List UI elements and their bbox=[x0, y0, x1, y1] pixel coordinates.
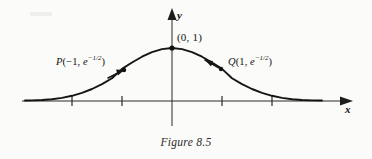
peak-point-label: (0, 1) bbox=[177, 32, 202, 43]
figure-caption: Figure 8.5 bbox=[0, 136, 372, 148]
point-p-x-value: −1 bbox=[66, 56, 77, 67]
figure-container: y x (0, 1) P(−1, e−1/2) Q(1, e−1/2) Figu… bbox=[0, 0, 372, 159]
point-q-y-exponent: −1/2 bbox=[255, 54, 269, 62]
point-p-y-exponent: −1/2 bbox=[88, 54, 102, 62]
point-q-close-paren: ) bbox=[269, 56, 273, 67]
x-axis-label: x bbox=[345, 104, 351, 115]
point-q-name: Q bbox=[228, 56, 236, 67]
leader-arrow-q-icon bbox=[205, 60, 213, 67]
point-marker-peak bbox=[169, 45, 174, 50]
point-q-label: Q(1, e−1/2) bbox=[228, 55, 272, 67]
point-p-label: P(−1, e−1/2) bbox=[56, 55, 105, 67]
point-p-close-paren: ) bbox=[101, 56, 105, 67]
y-axis-arrow-icon bbox=[168, 8, 177, 20]
y-axis-label: y bbox=[177, 10, 182, 21]
